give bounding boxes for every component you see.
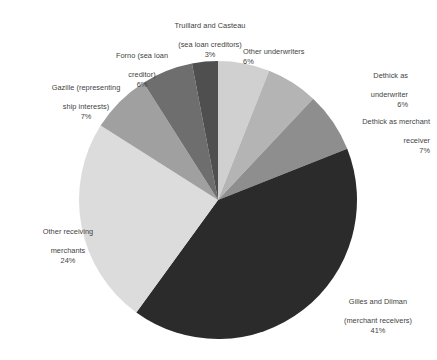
pie-label-percent: 24%	[16, 256, 120, 265]
pie-label-percent: 7%	[22, 112, 150, 121]
pie-label-forno: Forno (sea loan creditor) 6%	[100, 42, 184, 98]
pie-chart: Truillard and Casteau (sea loan creditor…	[0, 0, 437, 360]
pie-label-percent: 41%	[322, 326, 434, 335]
pie-label-line2: receiver	[404, 136, 430, 145]
pie-label-line1: Dethick as	[373, 71, 408, 80]
pie-label-percent: 7%	[324, 146, 430, 155]
pie-label-dethick-merchant-receiver: Dethick as merchant receiver 7%	[324, 108, 430, 164]
pie-label-line2: ship interests)	[63, 102, 109, 111]
pie-label-line1: Truillard and Casteau	[175, 21, 246, 30]
pie-label-percent: 6%	[100, 80, 184, 89]
pie-label-line2: (sea loan creditors)	[178, 40, 242, 49]
pie-label-line1: Dethick as merchant	[362, 117, 430, 126]
pie-label-line2: merchants	[51, 246, 86, 255]
pie-label-line2: (merchant receivers)	[344, 316, 412, 325]
pie-label-line2: creditor)	[128, 70, 155, 79]
pie-label-line1: Gilles and Dilman	[349, 297, 407, 306]
pie-label-line2: underwriter	[371, 90, 408, 99]
pie-label-line1: Other underwriters	[243, 47, 305, 56]
pie-label-line1: Forno (sea loan	[116, 51, 168, 60]
pie-label-gilles-and-dilman: Gilles and Dilman (merchant receivers) 4…	[322, 288, 434, 344]
pie-label-other-receiving-merchants: Other receiving merchants 24%	[16, 218, 120, 274]
pie-label-line1: Other receiving	[43, 227, 93, 236]
